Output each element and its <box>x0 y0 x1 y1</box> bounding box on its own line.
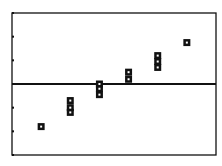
y-tick-mark <box>12 59 14 61</box>
marker-center-dot <box>69 107 71 109</box>
y-tick-mark <box>12 83 14 85</box>
marker-center-dot <box>157 66 159 68</box>
marker-center-dot <box>98 94 100 96</box>
y-tick-mark <box>12 130 14 132</box>
marker-center-dot <box>128 71 130 73</box>
marker-center-dot <box>157 61 159 63</box>
marker-center-dot <box>40 126 42 128</box>
scatter-plot <box>0 0 222 166</box>
marker-center-dot <box>186 42 188 44</box>
marker-center-dot <box>98 83 100 85</box>
marker-center-dot <box>98 88 100 90</box>
y-tick-mark <box>12 36 14 38</box>
y-tick-mark <box>12 12 14 14</box>
marker-center-dot <box>157 55 159 57</box>
marker-center-dot <box>69 100 71 102</box>
y-tick-mark <box>12 107 14 109</box>
marker-center-dot <box>128 78 130 80</box>
marker-center-dot <box>69 111 71 113</box>
y-tick-mark <box>12 154 14 156</box>
